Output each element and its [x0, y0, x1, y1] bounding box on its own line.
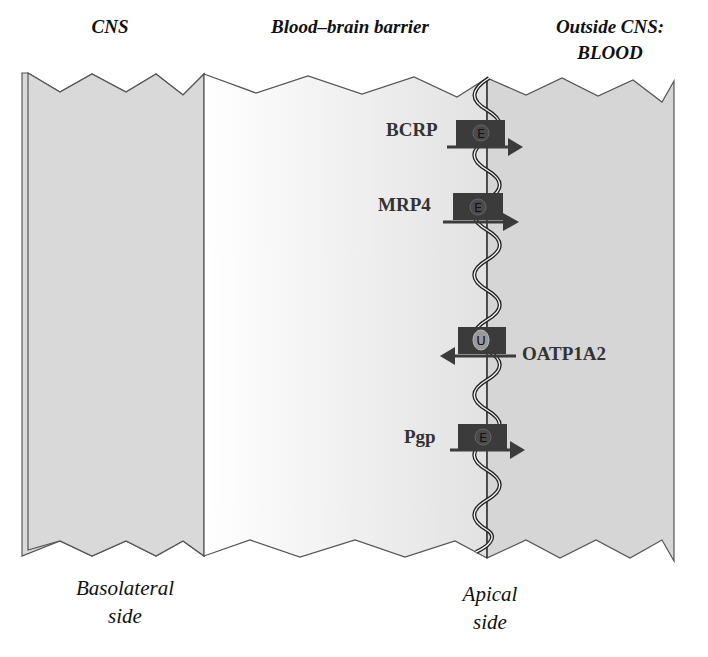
cns-title: CNS: [70, 14, 150, 39]
pgp-badge: E: [479, 430, 487, 445]
blood-title-line2: BLOOD: [540, 40, 680, 65]
blood-title-line1: Outside CNS:: [540, 14, 680, 39]
mrp4-badge: E: [474, 200, 482, 215]
bcrp-label: BCRP: [386, 119, 438, 141]
apical-label-line1: Apical: [440, 580, 540, 608]
pgp-label: Pgp: [404, 426, 436, 448]
oatp1a2-label: OATP1A2: [522, 343, 606, 365]
bcrp-badge: E: [477, 126, 485, 141]
bbb-title: Blood–brain barrier: [230, 14, 470, 39]
mrp4-label: MRP4: [378, 194, 431, 216]
bbb-panel: [204, 74, 487, 558]
apical-label-line2: side: [440, 608, 540, 636]
basolateral-label-line2: side: [60, 602, 190, 630]
basolateral-label-line1: Basolateral: [60, 574, 190, 602]
cns-panel-body: [28, 73, 204, 556]
oatp1a2-badge: U: [476, 333, 486, 348]
